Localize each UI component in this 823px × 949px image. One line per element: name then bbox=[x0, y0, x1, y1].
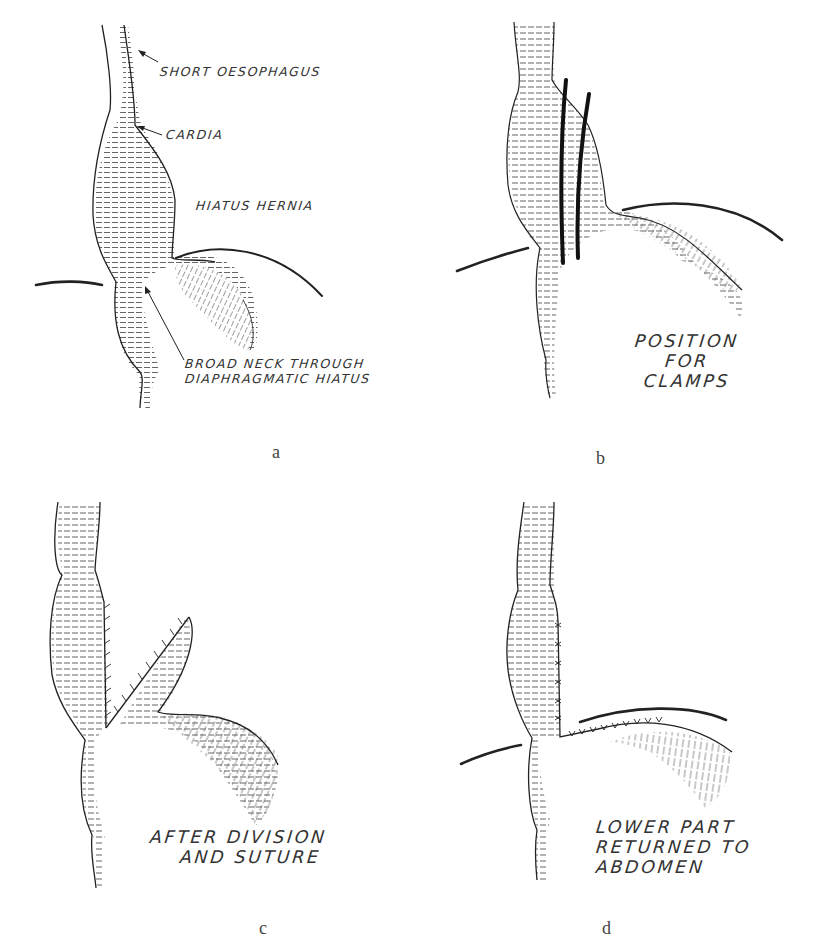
label-returned-to: RETURNED TO bbox=[595, 838, 752, 857]
panel-b-drawing bbox=[0, 0, 823, 470]
panel-c-drawing bbox=[0, 480, 420, 949]
hiatus-hernia-surgery-figure: SHORT OESOPHAGUS CARDIA HIATUS HERNIA BR… bbox=[0, 0, 823, 949]
caption-d: d bbox=[602, 918, 611, 939]
label-and-suture: AND SUTURE bbox=[179, 848, 322, 867]
label-position: POSITION bbox=[611, 332, 763, 351]
caption-c: c bbox=[259, 918, 267, 939]
label-abdomen: ABDOMEN bbox=[595, 858, 706, 877]
label-clamps: CLAMPS bbox=[611, 372, 763, 391]
label-after-division: AFTER DIVISION bbox=[149, 828, 328, 847]
caption-b: b bbox=[596, 448, 605, 469]
label-lower-part: LOWER PART bbox=[595, 818, 737, 837]
label-for: FOR bbox=[611, 352, 763, 371]
panel-d-drawing bbox=[420, 480, 823, 949]
